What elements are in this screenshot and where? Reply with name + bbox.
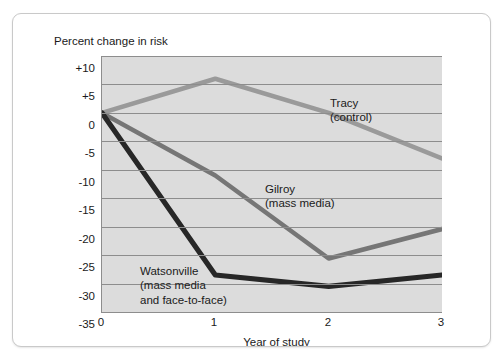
line-chart: Percent change in risk +10 +5 0 -5 -10 -… xyxy=(13,14,491,347)
series-label-watsonville-line3: and face-to-face) xyxy=(140,293,227,307)
y-tick-label: +5 xyxy=(82,91,95,103)
gridline xyxy=(102,227,442,228)
y-tick-label: -15 xyxy=(78,205,95,217)
series-label-gilroy-line1: Gilroy xyxy=(265,182,335,196)
y-tick-label: 0 xyxy=(89,120,95,132)
series-label-gilroy-line2: (mass media) xyxy=(265,196,335,210)
gridline xyxy=(102,56,442,57)
y-tick-label: -25 xyxy=(78,262,95,274)
series-label-watsonville-line1: Watsonville xyxy=(140,264,227,278)
x-axis-title: Year of study xyxy=(13,336,491,347)
series-label-tracy-line1: Tracy xyxy=(330,96,372,110)
y-tick-label: -5 xyxy=(85,148,95,160)
series-label-gilroy: Gilroy (mass media) xyxy=(265,182,335,211)
series-label-watsonville: Watsonville (mass media and face-to-face… xyxy=(140,264,227,307)
y-axis-tick-labels: +10 +5 0 -5 -10 -15 -20 -25 -30 -35 xyxy=(53,14,95,347)
x-axis-title-text: Year of study xyxy=(243,336,310,347)
y-tick-label: -30 xyxy=(78,291,95,303)
x-tick-label: 3 xyxy=(429,317,453,329)
x-tick-label: 0 xyxy=(89,317,113,329)
series-line-tracy xyxy=(102,79,442,159)
y-tick-label: +10 xyxy=(75,63,95,75)
series-label-tracy: Tracy (control) xyxy=(330,96,372,125)
x-tick-label: 2 xyxy=(316,317,340,329)
gridline xyxy=(102,84,442,85)
x-tick-label: 1 xyxy=(202,317,226,329)
y-tick-label: -20 xyxy=(78,234,95,246)
y-tick-label: -10 xyxy=(78,177,95,189)
series-label-watsonville-line2: (mass media xyxy=(140,278,227,292)
series-label-tracy-line2: (control) xyxy=(330,110,372,124)
gridline xyxy=(102,255,442,256)
gridline xyxy=(102,113,442,114)
figure-card: Percent change in risk +10 +5 0 -5 -10 -… xyxy=(12,13,491,347)
gridline xyxy=(102,170,442,171)
gridline xyxy=(102,141,442,142)
